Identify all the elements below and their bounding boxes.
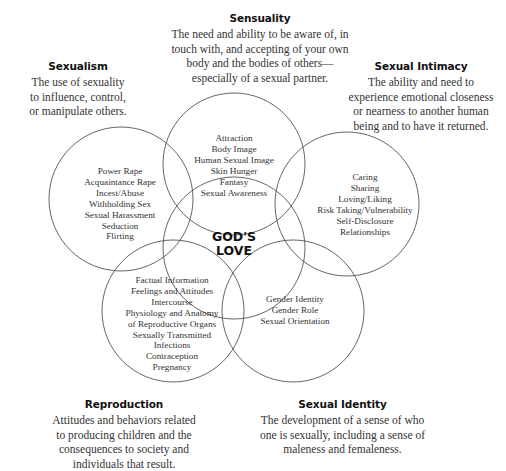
center-label-line: GOD'S [194,230,274,244]
desc-line: or manipulate others. [8,104,148,119]
list-item: Incest/Abuse [60,188,180,199]
desc-line: one is sexually, including a sense of [250,428,435,443]
list-item: Body Image [174,144,294,155]
list-item: Fantasy [174,177,294,188]
sexualism-description: The use of sexuality to influence, contr… [8,75,148,119]
desc-line: The ability and need to [340,75,502,90]
list-item: Pregnancy [112,362,232,373]
list-item: Power Rape [60,166,180,177]
list-item: Sexual Harassment [60,210,180,221]
desc-line: individuals that result. [44,457,204,471]
list-item: Relationships [300,227,430,238]
desc-line: The need and ability to be aware of, in [140,27,380,42]
list-item: Infections [112,340,232,351]
list-item: of Reproductive Organs [112,319,232,330]
list-item: Physiology and Anatomy [112,308,232,319]
list-item: Sexual Orientation [240,316,350,327]
reproduction-title: Reproduction [44,398,204,411]
desc-line: touch with, and accepting of your own [140,42,380,57]
list-item: Flirting [60,231,180,242]
desc-line: Attitudes and behaviors related [44,413,204,428]
list-item: Risk Taking/Vulnerability [300,205,430,216]
list-item: Sharing [300,183,430,194]
sexual-intimacy-description: The ability and need to experience emoti… [340,75,502,133]
list-item: Seduction [60,221,180,232]
list-item: Intercourse [112,297,232,308]
list-item: Withholding Sex [60,199,180,210]
desc-line: to producing children and the [44,428,204,443]
list-item: Attraction [174,133,294,144]
reproduction-description: Attitudes and behaviors related to produ… [44,413,204,471]
list-item: Factual Information [112,275,232,286]
list-item: Loving/Liking [300,194,430,205]
sensuality-title: Sensuality [140,12,380,25]
sexual-intimacy-title: Sexual Intimacy [340,60,502,73]
desc-line: to influence, control, [8,90,148,105]
sexualism-title: Sexualism [8,60,148,73]
desc-line: experience emotional closeness [340,90,502,105]
reproduction-definition: Reproduction Attitudes and behaviors rel… [44,398,204,471]
sexual-intimacy-definition: Sexual Intimacy The ability and need to … [340,60,502,133]
desc-line: being and to have it returned. [340,119,502,134]
reproduction-items: Factual Information Feelings and Attitud… [112,275,232,373]
list-item: Skin Hunger [174,166,294,177]
desc-line: consequences to society and [44,442,204,457]
sexual-identity-description: The development of a sense of who one is… [250,413,435,457]
center-label-line: LOVE [194,244,274,258]
list-item: Sexual Awareness [174,188,294,199]
sexualism-items: Power Rape Acquaintance Rape Incest/Abus… [60,166,180,242]
desc-line: maleness and femaleness. [250,442,435,457]
sexual-identity-items: Gender Identity Gender Role Sexual Orien… [240,294,350,327]
desc-line: The development of a sense of who [250,413,435,428]
sensuality-items: Attraction Body Image Human Sexual Image… [174,133,294,198]
list-item: Feelings and Attitudes [112,286,232,297]
list-item: Caring [300,172,430,183]
gods-love-label: GOD'S LOVE [194,230,274,257]
list-item: Human Sexual Image [174,155,294,166]
list-item: Gender Identity [240,294,350,305]
list-item: Gender Role [240,305,350,316]
list-item: Self-Disclosure [300,216,430,227]
sexual-identity-definition: Sexual Identity The development of a sen… [250,398,435,457]
sexualism-definition: Sexualism The use of sexuality to influe… [8,60,148,119]
sexuality-circles-diagram: Sensuality The need and ability to be aw… [0,0,506,471]
sexual-intimacy-items: Caring Sharing Loving/Liking Risk Taking… [300,172,430,237]
list-item: Acquaintance Rape [60,177,180,188]
desc-line: or nearness to another human [340,104,502,119]
sexual-identity-title: Sexual Identity [250,398,435,411]
desc-line: The use of sexuality [8,75,148,90]
list-item: Sexually Transmitted [112,330,232,341]
list-item: Contraception [112,351,232,362]
